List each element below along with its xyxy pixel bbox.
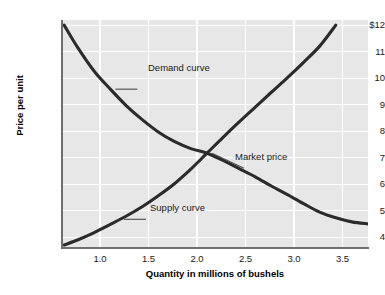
x-axis-spine [61, 247, 369, 249]
y-axis-title: Price per unit [14, 56, 25, 156]
y-tick-label: 11 [333, 47, 385, 57]
plot-area [62, 20, 368, 248]
y-tick-label: 7 [333, 153, 385, 163]
x-tick-label: 1.5 [129, 254, 169, 264]
y-tick-label: 10 [333, 73, 385, 83]
y-axis-spine [61, 20, 63, 249]
x-tick-label: 1.0 [80, 254, 120, 264]
x-tick-label: 2.5 [226, 254, 266, 264]
x-tick-label: 3.5 [323, 254, 363, 264]
curves [62, 20, 368, 248]
y-tick-label: $12 [333, 20, 385, 30]
y-tick-label: 4 [333, 232, 385, 242]
demand-curve-path [64, 25, 368, 224]
y-tick-label: 5 [333, 206, 385, 216]
market-price-annotation: Market price [235, 152, 287, 162]
x-tick-label: 3.0 [274, 254, 314, 264]
supply-demand-chart: $12 11 10 9 8 7 6 5 4 1.0 1.5 2.0 2.5 3.… [0, 0, 385, 295]
demand-curve-annotation: Demand curve [148, 63, 210, 73]
supply-curve-annotation: Supply curve [150, 203, 205, 213]
x-tick-label: 2.0 [177, 254, 217, 264]
x-axis-title: Quantity in millions of bushels [62, 268, 368, 279]
y-tick-label: 6 [333, 179, 385, 189]
y-tick-label: 8 [333, 126, 385, 136]
y-tick-label: 9 [333, 100, 385, 110]
